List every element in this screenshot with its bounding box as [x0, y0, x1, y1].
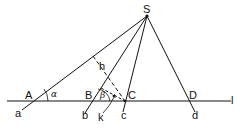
label-alpha: α	[51, 89, 57, 99]
label-s: S	[143, 3, 150, 15]
label-line-l: l	[231, 94, 233, 106]
label-c-ray: c	[121, 109, 127, 121]
label-beta: β	[99, 90, 105, 100]
label-a-point: A	[25, 89, 33, 101]
label-c-point: C	[128, 89, 136, 101]
point-c-dot	[124, 100, 126, 102]
perpendicular-h	[93, 56, 125, 101]
projection-diagram: S A B C D a b c d l h k α β	[0, 0, 243, 133]
ray-sb	[85, 16, 147, 113]
ray-sd	[147, 16, 195, 112]
label-h: h	[99, 60, 105, 72]
label-k: k	[98, 111, 104, 123]
label-b-ray: b	[82, 109, 88, 121]
label-a-ray: a	[15, 107, 22, 119]
label-d-ray: d	[192, 109, 198, 121]
label-d-point: D	[189, 89, 197, 101]
label-b-point: B	[85, 89, 92, 101]
